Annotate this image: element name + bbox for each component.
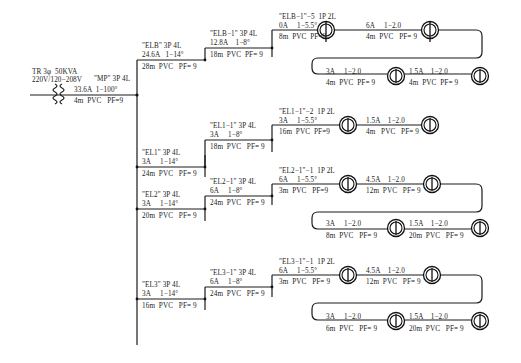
- circuit-el3-cable: 3m PVC PF= 9: [279, 279, 330, 286]
- segment-rating: 3A 1−2.0: [326, 69, 361, 76]
- panel-el1-name: "EL1" 3P 4L: [142, 150, 180, 157]
- junction-dot-icon: [204, 298, 207, 301]
- lamp-outlet-icon: [424, 267, 441, 284]
- junction-dot-icon: [271, 139, 274, 142]
- lamp-outlet-icon: [388, 313, 405, 330]
- panel-el2-cable: 20m PVC PF= 9: [142, 213, 197, 220]
- panel-el3-1-name: "EL3−1" 3P 4L: [210, 270, 256, 277]
- main-panel-name: "MP" 3P 4L: [94, 76, 130, 83]
- segment-cable: 12m PVC PF= 9: [366, 188, 421, 195]
- lamp-outlet-icon: [388, 220, 405, 237]
- circuit-elb-name: "ELB−1"−5 1P 2L: [279, 14, 336, 21]
- segment-rating: 6A 1−2.0: [366, 23, 401, 30]
- circuit-el1-name: "EL1−1"−2 1P 2L: [279, 109, 335, 116]
- lamp-outlet-icon: [422, 117, 439, 134]
- lamp-outlet-icon: [422, 22, 439, 43]
- circuit-el3-name: "EL3−1"−1 1P 2L: [279, 259, 335, 266]
- junction-dot-icon: [271, 195, 274, 198]
- segment-rating: 3A 1−2.0: [326, 221, 361, 228]
- segment-cable: 8m PVC PF= 9: [326, 233, 377, 240]
- lamp-outlet-icon: [472, 313, 489, 330]
- lamp-outlet-icon: [424, 176, 441, 193]
- lamp-outlet-icon: [472, 68, 489, 85]
- segment-rating: 1.5A 1−2.0: [409, 314, 448, 321]
- segment-rating: 4.5A 1−2.0: [366, 177, 405, 184]
- junction-dot-icon: [136, 208, 139, 211]
- panel-elb-rating: 24.6A 1−14°: [142, 52, 184, 59]
- transformer-coil-icon: [53, 84, 64, 104]
- panel-el3-1-cable: 24m PVC PF= 9: [210, 291, 265, 298]
- lamp-outlet-icon: [340, 267, 357, 284]
- junction-dot-icon: [271, 47, 274, 50]
- panel-el3-rating: 3A 1−14°: [142, 291, 178, 298]
- junction-dot-icon: [204, 208, 207, 211]
- segment-cable: 4m PVC PF= 9: [326, 80, 375, 87]
- circuit-el3-rating: 6A 1−5.5°: [279, 268, 317, 275]
- panel-el2-1-name: "EL2−1" 3P 4L: [210, 179, 256, 186]
- panel-elb-cable: 28m PVC PF= 9: [142, 64, 197, 71]
- lamp-outlet-icon: [340, 176, 357, 193]
- main-panel-cable: 4m PVC PF=9: [74, 98, 123, 105]
- panel-el1-1-rating: 3A 1−8°: [210, 132, 243, 139]
- segment-rating: 1.5A 1−2.0: [409, 69, 448, 76]
- junction-dot-icon: [271, 286, 274, 289]
- panel-el3-1-rating: 6A 1−8°: [210, 279, 243, 286]
- panel-el3-cable: 16m PVC PF= 9: [142, 303, 197, 310]
- panel-elb1-rating: 12.8A 1−8°: [210, 40, 250, 47]
- panel-el1-cable: 24m PVC PF= 9: [142, 171, 197, 178]
- circuit-el1-rating: 3A 1−5.5°: [279, 118, 317, 125]
- panel-elb-name: "ELB" 3P 4L: [142, 43, 181, 50]
- panel-el1-rating: 3A 1−14°: [142, 159, 178, 166]
- circuit-elb-cable: 8m PVC PF=9: [279, 34, 326, 41]
- segment-cable: 4m PVC PF= 9: [366, 34, 417, 41]
- panel-el2-1-rating: 6A 1−8°: [210, 188, 243, 195]
- lamp-outlet-icon: [388, 68, 405, 85]
- circuit-el2-name: "EL2−1"−1 1P 2L: [279, 168, 335, 175]
- circuit-elb-rating: 0A 1−5.5°: [279, 23, 317, 30]
- panel-el3-name: "EL3" 3P 4L: [142, 282, 180, 289]
- panel-el2-name: "EL2" 3P 4L: [142, 192, 180, 199]
- panel-el2-1-cable: 24m PVC PF= 9: [210, 200, 265, 207]
- panel-el1-1-name: "EL1−1" 3P 4L: [210, 123, 256, 130]
- junction-dot-icon: [136, 166, 139, 169]
- segment-cable: 20m PVC PF= 9: [409, 233, 464, 240]
- segment-rating: 3A 1−2.0: [326, 314, 361, 321]
- circuit-el2-rating: 6A 1−5.5°: [279, 177, 317, 184]
- panel-elb1-name: "ELB−1" 3P 4L: [210, 31, 257, 38]
- junction-dot-icon: [136, 298, 139, 301]
- segment-cable: 12m PVC PF= 9: [366, 279, 421, 286]
- main-panel-rating: 33.6A 1−100°: [74, 87, 118, 94]
- panel-el1-1-cable: 18m PVC PF= 9: [210, 144, 265, 151]
- segment-rating: 1.5A 1−2.0: [409, 221, 448, 228]
- circuit-el1-cable: 16m PVC PF=9: [279, 129, 330, 136]
- segment-cable: 6m PVC PF= 9: [326, 326, 377, 333]
- segment-cable: 20m PVC PF= 9: [409, 326, 464, 333]
- segment-rating: 4.5A 1−2.0: [366, 268, 405, 275]
- junction-dot-icon: [204, 59, 207, 62]
- junction-dot-icon: [135, 93, 138, 96]
- segment-cable: 4m PVC PF= 9: [409, 80, 458, 87]
- single-line-diagram: TR 3φ 50KVA 220V/120−208V "MP" 3P 4L 33.…: [0, 0, 521, 363]
- segment-cable: 4m PVC PF= 9: [366, 129, 419, 136]
- transformer-voltage: 220V/120−208V: [32, 77, 82, 84]
- panel-elb1-cable: 18m PVC PF= 9: [210, 52, 263, 59]
- circuit-el2-cable: 3m PVC PF=9: [279, 188, 328, 195]
- segment-rating: 1.5A 1−2.0: [366, 118, 405, 125]
- panel-el2-rating: 3A 1−14°: [142, 201, 178, 208]
- lamp-outlet-icon: [340, 117, 357, 134]
- lamp-outlet-icon: [472, 220, 489, 237]
